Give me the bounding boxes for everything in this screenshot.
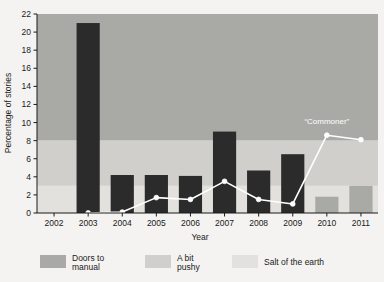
- bar-2007: [213, 132, 236, 213]
- y-tick-label-14: 14: [22, 81, 32, 91]
- y-tick-label-18: 18: [22, 45, 32, 55]
- marker-2009: [290, 202, 295, 207]
- x-tick-label-2004: 2004: [113, 218, 132, 228]
- bar-2008: [247, 170, 270, 213]
- y-axis-title: Percentage of stories: [3, 73, 13, 153]
- y-tick-label-22: 22: [22, 9, 32, 19]
- bar-2005: [145, 175, 168, 213]
- y-tick-label-0: 0: [26, 208, 31, 218]
- legend-label-0-line2: manual: [72, 262, 100, 272]
- y-tick-label-4: 4: [26, 172, 31, 182]
- x-tick-label-2011: 2011: [352, 218, 371, 228]
- x-axis-title: Year: [191, 232, 208, 242]
- x-tick-label-2008: 2008: [249, 218, 268, 228]
- y-tick-label-6: 6: [26, 154, 31, 164]
- x-tick-label-2006: 2006: [181, 218, 200, 228]
- y-tick-label-10: 10: [22, 118, 32, 128]
- x-tick-label-2010: 2010: [317, 218, 336, 228]
- legend-swatch-2: [232, 255, 258, 268]
- y-tick-label-2: 2: [26, 190, 31, 200]
- marker-2008: [256, 197, 261, 202]
- x-tick-label-2005: 2005: [147, 218, 166, 228]
- y-tick-label-16: 16: [22, 63, 32, 73]
- legend-swatch-0: [40, 255, 66, 268]
- marker-2011: [359, 137, 364, 142]
- bar-2004: [111, 175, 134, 213]
- x-tick-label-2007: 2007: [215, 218, 234, 228]
- y-tick-label-12: 12: [22, 99, 32, 109]
- legend-swatch-1: [145, 255, 171, 268]
- y-tick-label-20: 20: [22, 27, 32, 37]
- chart-svg: “Commoner” 0246810121416182022 200220032…: [0, 0, 384, 282]
- x-tick-label-2002: 2002: [45, 218, 64, 228]
- commoner-annotation: “Commoner”: [304, 117, 349, 126]
- bar-2003: [77, 23, 100, 213]
- marker-2007: [222, 179, 227, 184]
- marker-2006: [188, 197, 193, 202]
- y-tick-label-8: 8: [26, 136, 31, 146]
- x-tick-label-2009: 2009: [283, 218, 302, 228]
- bar-2010: [315, 197, 338, 213]
- x-tick-label-2003: 2003: [79, 218, 98, 228]
- marker-2005: [154, 195, 159, 200]
- legend-label-2: Salt of the earth: [264, 257, 324, 267]
- legend-label-1-line2: pushy: [177, 262, 200, 272]
- plot-area: “Commoner”: [37, 14, 378, 215]
- marker-2010: [324, 133, 329, 138]
- chart-figure: “Commoner” 0246810121416182022 200220032…: [0, 0, 384, 282]
- bar-2011: [349, 186, 372, 213]
